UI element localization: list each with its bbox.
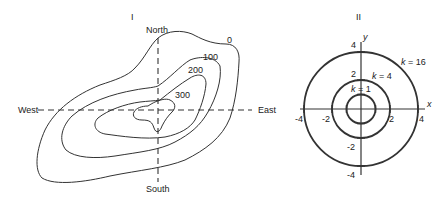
x-axis-label: x [426,99,432,109]
diagram-canvas: I North South West East 0 100 200 300 II… [0,0,447,198]
east-label: East [258,105,277,115]
y-tick-neg2: -2 [347,142,355,152]
y-tick-2: 2 [351,69,356,79]
y-axis-label: y [362,32,368,42]
x-tick-neg4: -4 [295,114,303,124]
panel-2-title: II [356,12,361,22]
contour-300 [133,99,174,131]
circle-label-k16: k = 16 [401,57,426,67]
x-tick-neg2: -2 [322,114,330,124]
panel-2-level-circles: II x y -4 -2 2 4 4 [295,12,432,180]
x-tick-2: 2 [389,114,394,124]
contour-label-100: 100 [203,52,218,62]
north-label: North [146,25,168,35]
contour-label-0: 0 [227,35,232,45]
south-label: South [146,184,170,194]
circle-label-k4: k = 4 [372,71,392,81]
x-tick-4: 4 [419,114,424,124]
panel-1-title: I [131,12,134,22]
contour-label-300: 300 [175,90,190,100]
contour-200 [95,75,206,138]
y-tick-4: 4 [351,40,356,50]
west-label: West [18,105,39,115]
contour-label-200: 200 [188,65,203,75]
circle-label-k1: k = 1 [351,84,371,94]
panel-1-contour-map: I North South West East 0 100 200 300 [18,12,277,194]
y-tick-neg4: -4 [347,170,355,180]
